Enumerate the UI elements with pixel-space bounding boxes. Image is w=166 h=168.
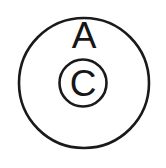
diagram-canvas: A C (0, 0, 166, 168)
inner-region-label-c: C (70, 63, 97, 104)
outer-region-label-a: A (72, 15, 97, 56)
concentric-circles-diagram: A C (0, 0, 166, 168)
